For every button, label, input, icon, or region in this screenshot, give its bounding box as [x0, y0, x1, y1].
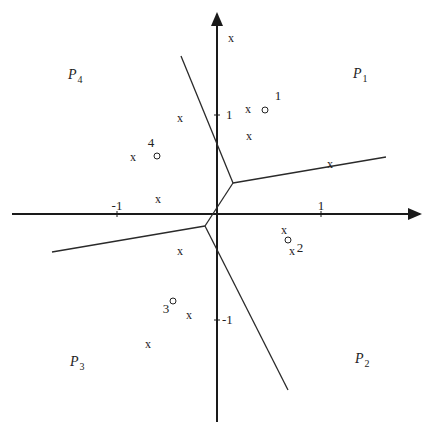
center-label: 1 [275, 88, 282, 103]
data-point-x-marker: x [177, 244, 183, 258]
region-label-p2: P2 [354, 351, 370, 369]
data-point-x-marker: x [289, 244, 295, 258]
data-point-x-marker: x [246, 129, 252, 143]
region-label-p4: P4 [67, 67, 83, 85]
data-point-x-marker: x [228, 31, 234, 45]
data-point-x-marker: x [245, 102, 251, 116]
boundary-line [205, 183, 233, 226]
x-tick-label: -1 [112, 198, 123, 213]
center-label: 3 [163, 301, 170, 316]
center-label: 2 [297, 240, 304, 255]
data-point-x-marker: x [155, 192, 161, 206]
center-circle-marker [285, 237, 291, 243]
data-point-x-marker: x [145, 337, 151, 351]
center-circle-marker [154, 153, 160, 159]
boundary-line [233, 157, 386, 183]
center-circle-marker [170, 298, 176, 304]
region-labels: P4P1P3P2 [67, 66, 370, 372]
x-tick-label: 1 [318, 198, 325, 213]
center-circle-marker [262, 107, 268, 113]
cluster-centers: 1234 [148, 88, 304, 316]
data-point-x-marker: x [130, 150, 136, 164]
sample-points: xxxxxxxxxxxx [130, 31, 333, 351]
center-label: 4 [148, 135, 155, 150]
partition-boundaries [52, 56, 386, 390]
voronoi-partition-diagram: -111-1 xxxxxxxxxxxx 1234 P4P1P3P2 [0, 0, 431, 432]
data-point-x-marker: x [177, 111, 183, 125]
region-label-p1: P1 [352, 66, 368, 84]
data-point-x-marker: x [186, 308, 192, 322]
data-point-x-marker: x [281, 223, 287, 237]
y-tick-label: -1 [222, 312, 233, 327]
region-label-p3: P3 [69, 354, 85, 372]
y-tick-label: 1 [226, 107, 233, 122]
data-point-x-marker: x [327, 157, 333, 171]
